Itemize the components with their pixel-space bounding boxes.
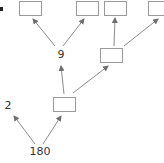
arrow-blank-b-to-blank-4	[124, 19, 158, 46]
arrow-blank-a-to-9	[61, 66, 64, 94]
node-9: 9	[56, 49, 66, 61]
arrow-180-to-2	[14, 116, 35, 144]
node-2: 2	[3, 100, 13, 112]
factor-tree-diagram: 9 2 180	[0, 0, 164, 163]
tree-edges	[0, 0, 164, 163]
node-180-root: 180	[29, 146, 51, 158]
blank-box-b[interactable]	[100, 48, 123, 63]
arrow-180-to-blank-a	[43, 116, 61, 144]
blank-box-1[interactable]	[19, 1, 42, 16]
blank-box-3[interactable]	[104, 1, 127, 16]
blank-box-4[interactable]	[148, 1, 164, 16]
blank-box-2[interactable]	[76, 1, 99, 16]
blank-box-a[interactable]	[53, 97, 76, 112]
arrow-blank-b-to-blank-3	[114, 18, 115, 46]
arrow-9-to-blank-2	[63, 19, 84, 46]
arrow-9-to-blank-1	[33, 19, 55, 46]
arrow-blank-a-to-blank-b	[73, 66, 108, 93]
